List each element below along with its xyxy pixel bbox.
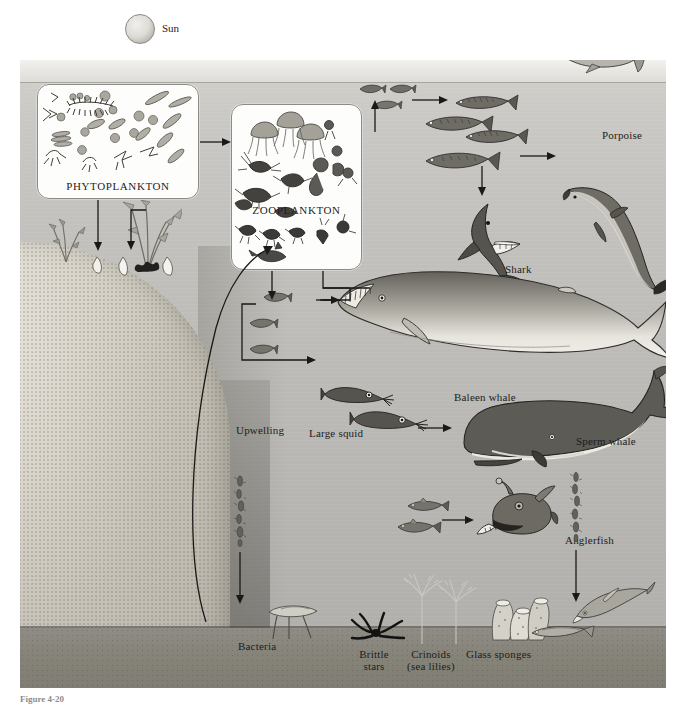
upwelling-label: Upwelling [236, 424, 284, 436]
sun-label: Sun [162, 22, 179, 34]
sun-icon [125, 14, 155, 44]
figure-page: Sun [0, 0, 684, 712]
energy-flow-arrows [20, 60, 666, 688]
figure-caption: Figure 4-20 [20, 694, 64, 704]
food-web-illustration: PHYTOPLANKTON [20, 60, 666, 688]
